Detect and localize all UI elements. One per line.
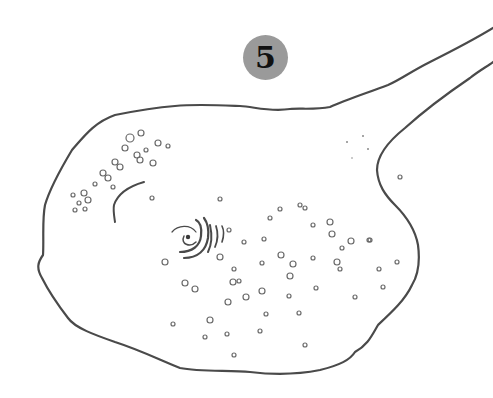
spot xyxy=(377,267,381,271)
eye-rings xyxy=(172,218,224,258)
spot xyxy=(225,299,231,305)
spot xyxy=(117,164,123,170)
spot xyxy=(73,208,77,212)
spot xyxy=(297,311,301,315)
left-curl xyxy=(114,182,144,222)
spot xyxy=(192,286,198,292)
spot xyxy=(218,197,222,201)
eye-pupil xyxy=(186,235,190,239)
spot xyxy=(264,312,268,316)
spot xyxy=(162,259,168,265)
spot xyxy=(230,279,236,285)
spot xyxy=(112,159,118,165)
spot xyxy=(144,148,148,152)
spot xyxy=(298,203,302,207)
spot xyxy=(311,223,315,227)
spot xyxy=(338,267,342,271)
spot xyxy=(311,256,315,260)
spot xyxy=(111,185,115,189)
spot xyxy=(395,260,399,264)
spot xyxy=(287,273,293,279)
spot xyxy=(150,196,154,200)
spot xyxy=(203,335,207,339)
spot xyxy=(182,280,188,286)
spot xyxy=(122,145,128,151)
spot xyxy=(381,285,385,289)
spot xyxy=(232,353,236,357)
spot xyxy=(259,288,265,294)
spot xyxy=(71,193,75,197)
spot xyxy=(242,240,246,244)
spot xyxy=(314,286,318,290)
spot xyxy=(334,259,340,265)
tail-specks xyxy=(346,135,369,159)
spot xyxy=(258,329,262,333)
spot xyxy=(93,182,97,186)
spot xyxy=(278,207,282,211)
spot xyxy=(287,294,291,298)
spot xyxy=(105,175,111,181)
spot xyxy=(227,228,231,232)
spot xyxy=(85,197,91,203)
spot xyxy=(237,279,241,283)
spot xyxy=(348,238,354,244)
spot xyxy=(171,322,175,326)
spots xyxy=(71,130,402,357)
spot xyxy=(155,140,161,146)
spot xyxy=(290,261,296,267)
spot xyxy=(232,267,236,271)
spot xyxy=(268,216,272,220)
spot xyxy=(81,190,87,196)
spot xyxy=(303,206,307,210)
spot xyxy=(398,175,402,179)
spot xyxy=(77,201,81,205)
spot xyxy=(260,261,264,265)
spot xyxy=(353,295,357,299)
spot xyxy=(303,343,307,347)
figure-number: 5 xyxy=(255,40,276,75)
spot xyxy=(278,252,284,258)
spot xyxy=(137,157,143,163)
spot xyxy=(225,332,229,336)
spot xyxy=(138,130,144,136)
spot xyxy=(207,317,213,323)
spot xyxy=(327,219,333,225)
spot xyxy=(217,254,223,260)
figure-number-badge: 5 xyxy=(243,35,288,80)
spot xyxy=(100,170,106,176)
spot xyxy=(340,246,344,250)
spot xyxy=(150,160,156,166)
spot xyxy=(83,207,87,211)
spot xyxy=(262,237,266,241)
spot xyxy=(166,144,170,148)
spot xyxy=(329,231,335,237)
spot xyxy=(126,134,134,142)
spot xyxy=(243,294,249,300)
